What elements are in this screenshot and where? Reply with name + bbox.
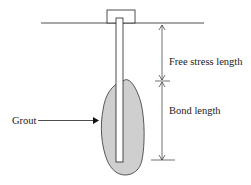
anchor-rod <box>116 18 123 162</box>
dimension-bond <box>159 82 165 160</box>
anchor-diagram: Free stress length Bond length Grout <box>0 0 251 185</box>
dimension-free-stress <box>159 25 165 80</box>
free-stress-length-label: Free stress length <box>169 56 243 67</box>
bond-length-label: Bond length <box>169 105 221 116</box>
grout-arrowhead-icon <box>93 117 99 124</box>
grout-label: Grout <box>12 115 37 126</box>
